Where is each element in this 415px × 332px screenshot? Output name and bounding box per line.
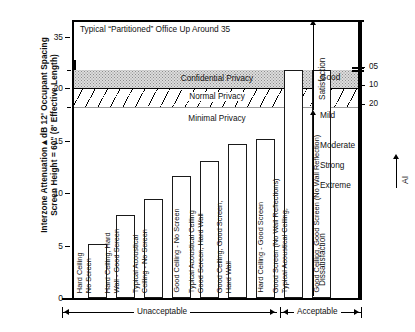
ai-rating-mild: Mild	[320, 110, 335, 120]
y-tick-label-35: 35	[43, 32, 63, 42]
bar-4-label: Good Ceiling - No Screen	[173, 209, 182, 293]
ai-arrow-shaft	[396, 158, 397, 188]
y-tick-minor-upper	[67, 70, 71, 71]
bar-3[interactable]: Typical AcousticalCeiling - No Screen	[144, 199, 163, 298]
y-tick-15	[65, 141, 70, 142]
ai-rating-strong: Strong	[320, 160, 344, 170]
ai-tick-20	[358, 104, 365, 105]
ai-cap-top	[352, 20, 364, 22]
bar-2[interactable]: Hard Ceiling, HardWall - Good Screen	[116, 215, 135, 298]
ai-arrowhead-icon	[393, 154, 399, 159]
ai-tick-label-10: 10	[369, 80, 378, 89]
y-tick-label-10: 10	[43, 188, 63, 198]
range-arrowhead-right-unacceptable-icon	[270, 309, 275, 315]
chart-root: Interzone Attenuation▲dB 12' Occupant Sp…	[0, 0, 415, 332]
satisfaction-label: Satisfaction	[318, 58, 327, 100]
bar-7-label: Hard Ceiling - Good Screen	[257, 202, 266, 293]
top-reference-note: Typical “Partitioned” Office Up Around 3…	[80, 24, 230, 34]
top-box-cap-left	[74, 60, 76, 70]
x-axis-baseline	[62, 298, 362, 300]
ai-tick-10	[358, 85, 365, 86]
ai-cap-main-top	[352, 70, 364, 72]
range-arrowhead-left-icon	[64, 309, 69, 315]
ai-rating-extreme: Extreme	[320, 180, 351, 190]
ai-axis-label: AI	[400, 176, 410, 184]
range-arrowhead-right-acceptable-icon	[354, 309, 359, 315]
satisfaction-arrowhead-icon	[310, 20, 316, 25]
dissatisfaction-label: Dissatisfaction	[318, 233, 327, 286]
ai-axis-line-upper	[358, 20, 360, 68]
bar-7[interactable]: Hard Ceiling - Good Screen	[256, 139, 275, 298]
ai-tick-label-20: 20	[369, 99, 378, 108]
y-tick-label-20: 20	[43, 83, 63, 93]
y-axis-title-line-1: Interzone Attenuation▲dB 12' Occupant Sp…	[39, 37, 50, 233]
y-tick-label-0: 0	[43, 293, 63, 303]
bar-8[interactable]: Good Screen (No Wall Reflections)Typical…	[284, 70, 303, 298]
range-label-unacceptable: Unacceptable	[134, 307, 190, 316]
range-cap-right	[361, 307, 362, 318]
ai-tick-label-05: 05	[369, 62, 378, 71]
y-tick-label-5: 5	[43, 241, 63, 251]
y-tick-35	[65, 37, 70, 38]
bottom-range-row: Unacceptable Acceptable	[62, 303, 362, 325]
bar-5[interactable]: Typical Acoustical CeilingGood Screen, H…	[200, 161, 219, 298]
y-tick-minor-lower	[67, 107, 71, 108]
y-tick-10	[65, 193, 70, 194]
y-tick-20	[65, 88, 70, 89]
ai-rating-moderate: Moderate	[320, 140, 355, 150]
dissatisfaction-arrowhead-icon	[310, 110, 316, 115]
bar-4[interactable]: Good Ceiling - No Screen	[172, 176, 191, 298]
ai-tick-05	[358, 67, 365, 68]
bar-1[interactable]: Hard CeilingNo Screen	[88, 244, 107, 298]
dissatisfaction-arrow-shaft	[313, 114, 314, 296]
bar-6[interactable]: Good Ceiling, Good Screen,Hard Wall	[228, 144, 247, 298]
range-label-acceptable: Acceptable	[294, 307, 341, 316]
y-tick-label-15: 15	[43, 136, 63, 146]
range-arrowhead-left-acceptable-icon	[283, 309, 288, 315]
y-tick-5	[65, 246, 70, 247]
bar-1-label: Hard CeilingNo Screen	[76, 252, 93, 293]
satisfaction-arrow-shaft	[313, 24, 314, 110]
